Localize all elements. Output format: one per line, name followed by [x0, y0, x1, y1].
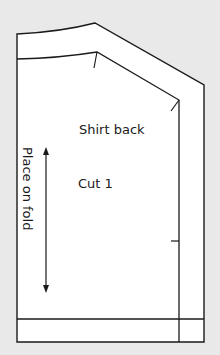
fold-instruction: Place on fold	[21, 147, 34, 230]
pattern-title: Shirt back	[79, 123, 145, 136]
cut-instruction: Cut 1	[78, 177, 113, 190]
